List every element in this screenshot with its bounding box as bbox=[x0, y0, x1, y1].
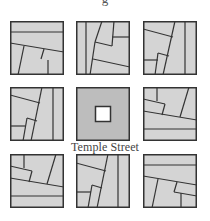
parcel-lines bbox=[143, 154, 197, 208]
parcel-lines bbox=[10, 87, 64, 141]
tile-bottom-left bbox=[10, 154, 64, 208]
tile-bottom-center bbox=[76, 154, 130, 208]
temple-square-icon bbox=[96, 107, 111, 122]
parcel-lines bbox=[143, 21, 197, 75]
tile-top-center bbox=[76, 21, 130, 75]
temple-street-label: Temple Street bbox=[60, 140, 150, 155]
parcel-lines bbox=[10, 21, 64, 75]
parcel-lines bbox=[76, 154, 130, 208]
tile-top-right bbox=[143, 21, 197, 75]
parcel-lines bbox=[10, 154, 64, 208]
tile-middle-right bbox=[143, 87, 197, 141]
tile-center-temple bbox=[76, 87, 130, 141]
parcel-lines bbox=[76, 21, 130, 75]
tile-bottom-right bbox=[143, 154, 197, 208]
temple-plot bbox=[76, 87, 130, 141]
tile-middle-left bbox=[10, 87, 64, 141]
parcel-lines bbox=[143, 87, 197, 141]
clipped-heading: g bbox=[0, 0, 210, 7]
tile-top-left bbox=[10, 21, 64, 75]
